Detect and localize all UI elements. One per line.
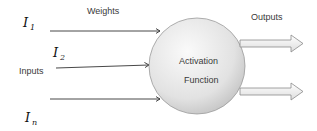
svg-text:I: I — [52, 45, 59, 60]
svg-text:n: n — [32, 118, 37, 127]
svg-text:2: 2 — [59, 53, 65, 62]
output-arrow-2 — [240, 83, 303, 100]
inputs-label: Inputs — [19, 66, 44, 76]
input-arrow-2 — [56, 65, 149, 68]
svg-text:I: I — [24, 110, 31, 125]
svg-text:I: I — [22, 15, 29, 30]
input-i1: I 1 — [22, 15, 35, 32]
output-arrow-1 — [240, 35, 303, 52]
activation-function-node — [149, 18, 245, 114]
input-in: I n — [24, 110, 37, 127]
input-i2: I 2 — [52, 45, 65, 62]
neuron-diagram: Weights I 1 I 2 I n Inputs Activation Fu… — [0, 0, 317, 131]
weights-label: Weights — [87, 6, 120, 16]
function-label: Function — [184, 75, 219, 85]
svg-text:1: 1 — [30, 23, 35, 32]
outputs-label: Outputs — [251, 12, 283, 22]
activation-label: Activation — [179, 56, 218, 66]
